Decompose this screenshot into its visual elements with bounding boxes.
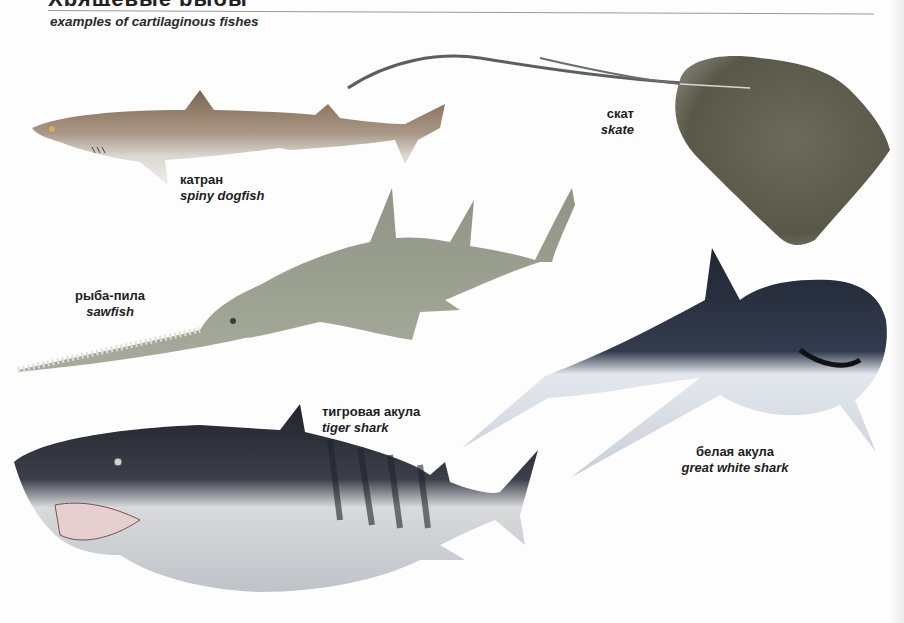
tiger-shark-illustration <box>0 0 904 623</box>
book-page: Хрящевые рыбы examples of cartilaginous … <box>0 0 904 623</box>
label-ru: тигровая акула <box>322 404 420 420</box>
label-tiger-shark: тигровая акула tiger shark <box>322 404 420 436</box>
label-en: tiger shark <box>322 420 420 436</box>
page-edge-shadow <box>890 0 904 623</box>
